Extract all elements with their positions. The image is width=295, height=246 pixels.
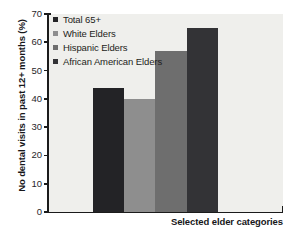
- legend-item-4: African American Elders: [53, 54, 162, 68]
- y-tick-label: 40: [31, 94, 42, 104]
- legend-item-label: White Elders: [63, 28, 116, 39]
- y-tick-mark: [44, 126, 49, 128]
- legend-item-label: African American Elders: [63, 56, 162, 67]
- y-tick-label: 50: [31, 66, 42, 76]
- bar-2: [124, 99, 155, 212]
- legend-swatch-icon: [53, 45, 58, 50]
- y-tick-label: 70: [31, 9, 42, 19]
- y-tick-label: 60: [31, 37, 42, 47]
- x-axis-title: Selected elder categories: [0, 216, 283, 227]
- bar-chart: No dental visits in past 12+ months (%) …: [0, 0, 295, 246]
- legend-swatch-icon: [53, 31, 58, 36]
- y-tick-mark: [44, 211, 49, 213]
- legend-item-label: Total 65+: [63, 14, 101, 25]
- legend-item-1: Total 65+: [53, 12, 162, 26]
- y-tick-mark: [44, 41, 49, 43]
- y-tick-mark: [44, 13, 49, 15]
- chart-legend: Total 65+White EldersHispanic EldersAfri…: [53, 12, 162, 68]
- y-tick-label: 20: [31, 150, 42, 160]
- y-tick-label: 30: [31, 122, 42, 132]
- legend-item-2: White Elders: [53, 26, 162, 40]
- bar-3: [155, 51, 186, 212]
- bar-4: [187, 28, 218, 212]
- y-tick-label: 10: [31, 179, 42, 189]
- legend-swatch-icon: [53, 17, 58, 22]
- x-axis-end-cap: [282, 206, 284, 213]
- y-tick-mark: [44, 98, 49, 100]
- y-axis-title: No dental visits in past 12+ months (%): [16, 6, 27, 206]
- legend-item-label: Hispanic Elders: [63, 42, 128, 53]
- bar-1: [93, 88, 124, 212]
- y-tick-mark: [44, 155, 49, 157]
- x-axis-line: [47, 212, 283, 214]
- y-tick-mark: [44, 70, 49, 72]
- legend-swatch-icon: [53, 59, 58, 64]
- legend-item-3: Hispanic Elders: [53, 40, 162, 54]
- y-tick-mark: [44, 183, 49, 185]
